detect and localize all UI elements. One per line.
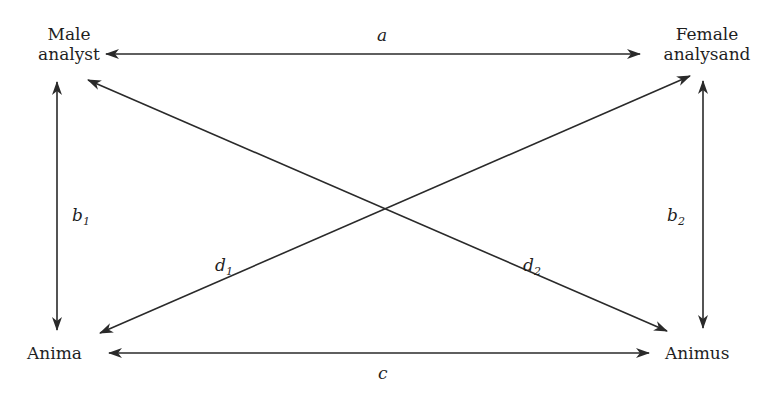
edge-label-b1-subscript: 1 <box>83 215 90 228</box>
edge-label-c: c <box>378 364 388 382</box>
node-female-analysand-line-1: Female <box>651 24 763 44</box>
node-female-analysand: Female analysand <box>651 24 763 64</box>
edge-label-d1-letter: d <box>215 255 226 275</box>
node-male-analyst: Male analyst <box>33 24 105 64</box>
edge-label-d2: d2 <box>523 256 541 281</box>
edge-label-b1: b1 <box>72 206 90 231</box>
node-male-analyst-line-1: Male <box>33 24 105 44</box>
node-anima-label: Anima <box>27 343 91 363</box>
edge-d1-arrow <box>100 76 690 333</box>
node-female-analysand-line-2: analysand <box>651 44 763 64</box>
edge-label-c-letter: c <box>378 363 388 383</box>
edge-label-b2-letter: b <box>667 205 678 225</box>
edge-label-b2: b2 <box>667 206 685 231</box>
edge-label-d2-letter: d <box>523 255 534 275</box>
node-male-analyst-line-2: analyst <box>33 44 105 64</box>
edge-label-d2-subscript: 2 <box>534 265 541 278</box>
edge-label-b2-subscript: 2 <box>678 215 685 228</box>
edge-label-b1-letter: b <box>72 205 83 225</box>
edge-label-a-letter: a <box>377 25 387 45</box>
node-animus-label: Animus <box>665 343 745 363</box>
edge-label-d1: d1 <box>215 256 233 281</box>
node-anima: Anima <box>27 343 91 363</box>
edge-label-a: a <box>377 26 387 44</box>
edge-d2-arrow <box>88 80 667 331</box>
node-animus: Animus <box>665 343 745 363</box>
edge-label-d1-subscript: 1 <box>226 265 233 278</box>
